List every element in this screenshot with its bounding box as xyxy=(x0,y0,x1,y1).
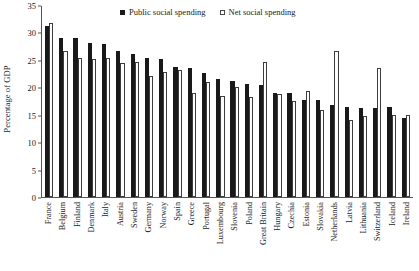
bar-group xyxy=(199,6,213,197)
bar-net xyxy=(349,120,353,197)
x-axis-label: Hungary xyxy=(274,202,282,231)
bar-group xyxy=(170,6,184,197)
x-axis-label: Belgium xyxy=(59,202,67,230)
x-axis-label: Greece xyxy=(188,202,196,225)
y-tick-mark-10 xyxy=(38,143,41,144)
bar-group xyxy=(227,6,241,197)
x-axis-label: Ireland xyxy=(403,202,411,225)
x-label-cell: Belgium xyxy=(56,200,70,270)
y-tick-mark-25 xyxy=(38,60,41,61)
x-label-cell: Greece xyxy=(185,200,199,270)
bar-net xyxy=(334,51,338,197)
x-label-cell: Norway xyxy=(157,200,171,270)
y-tick-mark-30 xyxy=(38,33,41,34)
bar-net xyxy=(263,62,267,197)
x-label-cell: Sweden xyxy=(128,200,142,270)
bar-group xyxy=(256,6,270,197)
bar-group xyxy=(384,6,398,197)
bar-net xyxy=(135,62,139,197)
bar-group xyxy=(370,6,384,197)
bar-net xyxy=(292,101,296,197)
x-axis-label: Slovenia xyxy=(231,202,239,231)
x-label-cell: Hungary xyxy=(271,200,285,270)
x-label-cell: Italy xyxy=(99,200,113,270)
x-axis-label: Luxembourg xyxy=(217,202,225,244)
bar-net xyxy=(149,76,153,197)
bar-net xyxy=(120,63,124,197)
x-label-cell: Switzerland xyxy=(371,200,385,270)
y-tick-mark-0 xyxy=(38,198,41,199)
bar-group xyxy=(356,6,370,197)
bar-group xyxy=(313,6,327,197)
bar-net xyxy=(392,115,396,197)
bar-group xyxy=(213,6,227,197)
bar-group xyxy=(327,6,341,197)
x-label-cell: Denmark xyxy=(85,200,99,270)
bar-net xyxy=(163,72,167,197)
x-axis-label: Portugal xyxy=(202,202,210,230)
x-axis-label: Estonia xyxy=(303,202,311,227)
bar-net xyxy=(363,116,367,197)
bar-group xyxy=(299,6,313,197)
x-label-cell: Poland xyxy=(242,200,256,270)
y-axis-title: Percentage of GDP xyxy=(0,0,14,198)
bar-chart-figure: Public social spending Net social spendi… xyxy=(0,0,419,271)
x-axis-label: Germany xyxy=(145,202,153,232)
bar-net xyxy=(192,93,196,197)
x-axis-label: Norway xyxy=(160,202,168,228)
x-axis-label: Poland xyxy=(245,202,253,225)
y-tick-mark-20 xyxy=(38,88,41,89)
plot-area: 05101520253035 xyxy=(41,6,413,198)
x-axis-label: Iceland xyxy=(389,202,397,226)
bar-net xyxy=(277,94,281,197)
bars-container xyxy=(42,6,413,197)
bar-group xyxy=(185,6,199,197)
x-axis-line xyxy=(41,197,413,198)
bar-group xyxy=(156,6,170,197)
bar-group xyxy=(113,6,127,197)
x-label-cell: France xyxy=(42,200,56,270)
x-label-cell: Spain xyxy=(171,200,185,270)
bar-net xyxy=(220,96,224,197)
y-tick-mark-15 xyxy=(38,115,41,116)
bar-net xyxy=(406,115,410,197)
x-axis-label: Netherlands xyxy=(331,202,339,242)
x-label-cell: Finland xyxy=(71,200,85,270)
bar-net xyxy=(306,91,310,197)
bar-net xyxy=(249,97,253,197)
x-axis-label: Spain xyxy=(174,202,182,221)
x-axis-label: Switzerland xyxy=(374,202,382,241)
bar-group xyxy=(99,6,113,197)
x-axis-label: France xyxy=(45,202,53,224)
x-axis-label: Italy xyxy=(102,202,110,217)
bar-net xyxy=(49,23,53,197)
bar-net xyxy=(78,58,82,197)
x-axis-label: Slovakia xyxy=(317,202,325,231)
x-label-cell: Slovenia xyxy=(228,200,242,270)
x-axis-label: Denmark xyxy=(88,202,96,232)
bar-group xyxy=(56,6,70,197)
bar-group xyxy=(142,6,156,197)
x-axis-label: Lithuania xyxy=(360,202,368,233)
x-label-cell: Austria xyxy=(114,200,128,270)
bar-group xyxy=(399,6,413,197)
x-label-cell: Czechia xyxy=(285,200,299,270)
bar-net xyxy=(63,51,67,197)
x-axis-label: Austria xyxy=(117,202,125,226)
bar-net xyxy=(106,58,110,197)
x-axis-label: Sweden xyxy=(131,202,139,228)
x-label-cell: Estonia xyxy=(300,200,314,270)
bar-net xyxy=(206,82,210,197)
x-label-cell: Lithuania xyxy=(357,200,371,270)
x-label-cell: Slovakia xyxy=(314,200,328,270)
x-axis-label: Latvia xyxy=(346,202,354,223)
bar-net xyxy=(92,59,96,197)
bar-group xyxy=(85,6,99,197)
x-label-cell: Netherlands xyxy=(328,200,342,270)
bar-group xyxy=(342,6,356,197)
bar-group xyxy=(128,6,142,197)
x-label-cell: Luxembourg xyxy=(214,200,228,270)
x-axis-labels: FranceBelgiumFinlandDenmarkItalyAustriaS… xyxy=(42,200,414,270)
bar-net xyxy=(235,87,239,197)
x-axis-label: Czechia xyxy=(288,202,296,228)
